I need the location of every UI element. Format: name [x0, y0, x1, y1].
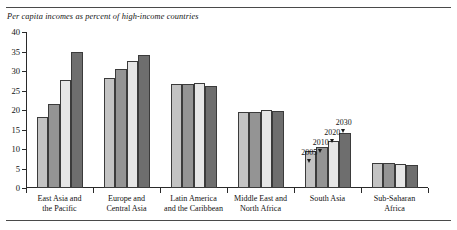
bar — [249, 112, 261, 188]
bar — [48, 104, 60, 188]
x-axis-category-label-line: Sub-Saharan — [374, 194, 415, 204]
bar — [238, 112, 250, 188]
bar-group-bars — [35, 32, 85, 188]
bar — [71, 52, 83, 189]
bar — [60, 80, 72, 188]
x-axis-category-label-line: North Africa — [234, 204, 287, 214]
y-tick-label: 10 — [11, 144, 20, 154]
bar-group: Europe andCentral Asia — [102, 32, 152, 188]
bar-group: Sub-SaharanAfrica — [370, 32, 420, 188]
y-axis-line — [26, 32, 27, 188]
y-tick-mark — [22, 130, 27, 131]
annotation-label: 2010 — [313, 138, 329, 147]
y-tick-mark — [22, 71, 27, 72]
x-axis-category-label-line: the Pacific — [37, 204, 81, 214]
x-axis-category-label: Sub-SaharanAfrica — [374, 194, 415, 215]
y-tick-label: 0 — [16, 183, 20, 193]
annotation-arrow-head — [307, 159, 311, 163]
x-axis-category-label: South Asia — [310, 194, 345, 204]
bar — [194, 83, 206, 188]
bar — [138, 55, 150, 188]
bar — [182, 84, 194, 188]
annotation-label: 2020 — [324, 128, 340, 137]
y-tick-label: 20 — [11, 105, 20, 115]
x-tick-mark — [294, 188, 295, 193]
y-tick-mark — [22, 149, 27, 150]
bottom-divider-rule — [6, 220, 451, 221]
x-axis-category-label-line: East Asia and — [37, 194, 81, 204]
x-axis-category-label: Latin Americaand the Caribbean — [164, 194, 223, 215]
annotation-label: 2030 — [336, 118, 352, 127]
x-tick-mark — [227, 188, 228, 193]
bar-group-bars — [370, 32, 420, 188]
annotation-label: 2005 — [301, 148, 317, 157]
bar — [372, 163, 384, 188]
bar — [395, 164, 407, 188]
bar — [171, 84, 183, 188]
bar-group: East Asia andthe Pacific — [35, 32, 85, 188]
y-tick-mark — [22, 169, 27, 170]
chart-figure: Per capita incomes as percent of high-in… — [0, 0, 457, 230]
bar-group-bars — [169, 32, 219, 188]
bar — [104, 78, 116, 188]
bar — [127, 61, 139, 188]
y-tick-mark — [22, 32, 27, 33]
y-tick-mark — [22, 91, 27, 92]
x-tick-mark — [160, 188, 161, 193]
x-axis-category-label-line: and the Caribbean — [164, 204, 223, 214]
annotation-arrow-head — [318, 149, 322, 153]
y-tick-label: 25 — [11, 86, 20, 96]
bar-group: South Asia — [303, 32, 353, 188]
bar-group: Middle East andNorth Africa — [236, 32, 286, 188]
bar-group-bars — [303, 32, 353, 188]
x-axis-category-label: Middle East andNorth Africa — [234, 194, 287, 215]
bar — [37, 117, 49, 188]
y-tick-label: 30 — [11, 66, 20, 76]
bar — [272, 111, 284, 188]
bar — [115, 69, 127, 188]
bar-group-bars — [236, 32, 286, 188]
bar — [339, 133, 351, 188]
x-tick-mark — [428, 188, 429, 193]
x-tick-mark — [361, 188, 362, 193]
plot-area: 0510152025303540 East Asia andthe Pacifi… — [26, 32, 450, 188]
y-tick-label: 15 — [11, 125, 20, 135]
x-axis-category-label-line: Africa — [374, 204, 415, 214]
bar-group-bars — [102, 32, 152, 188]
x-axis-category-label-line: Middle East and — [234, 194, 287, 204]
x-axis-category-label-line: South Asia — [310, 194, 345, 204]
bar — [261, 110, 273, 188]
x-tick-mark — [93, 188, 94, 193]
chart-title: Per capita incomes as percent of high-in… — [7, 12, 199, 21]
x-tick-mark — [26, 188, 27, 193]
y-tick-label: 35 — [11, 47, 20, 57]
x-axis-category-label-line: Europe and — [106, 194, 146, 204]
bar — [383, 163, 395, 188]
bar — [328, 141, 340, 188]
x-axis-category-label-line: Central Asia — [106, 204, 146, 214]
bar — [205, 86, 217, 188]
x-axis-category-label: East Asia andthe Pacific — [37, 194, 81, 215]
annotation-arrow-head — [330, 139, 334, 143]
y-tick-label: 5 — [16, 164, 20, 174]
bar — [316, 147, 328, 188]
annotation-arrow-head — [341, 129, 345, 133]
bar-group: Latin Americaand the Caribbean — [169, 32, 219, 188]
x-axis-category-label: Europe andCentral Asia — [106, 194, 146, 215]
y-tick-label: 40 — [11, 27, 20, 37]
y-tick-mark — [22, 52, 27, 53]
top-divider-rule — [6, 7, 451, 8]
y-tick-mark — [22, 110, 27, 111]
x-axis-category-label-line: Latin America — [164, 194, 223, 204]
bar — [406, 165, 418, 188]
